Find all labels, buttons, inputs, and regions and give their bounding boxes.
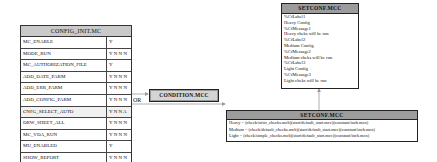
- setconf-top-title: SETCONF.MCC: [282, 4, 358, 14]
- config-key: MC_AUTHORIZATION_FILE: [21, 60, 107, 71]
- config-key: MC_ENABLE: [21, 37, 107, 48]
- config-value: Y N N N: [107, 49, 131, 60]
- config-value: Y N N N: [107, 83, 131, 94]
- setconf-definitions-box: SETCONF.MCC Heavy = (check/strict_checks…: [226, 110, 418, 142]
- config-key: ADD_DATE_PARM: [21, 72, 107, 83]
- config-value: Y: [107, 60, 131, 71]
- config-value: Y N N N: [107, 130, 131, 141]
- table-row: MC_VDA_RUNY N N N: [21, 130, 131, 142]
- or-connector-label: OR: [133, 97, 141, 103]
- table-row: MU_ENABLEDY: [21, 141, 131, 153]
- table-row: DRW_SHEET_ALLY N N N: [21, 118, 131, 130]
- config-key: ADD_CONFIG_PARM: [21, 95, 107, 106]
- config-key: MU_ENABLED: [21, 141, 107, 152]
- config-table-title: CONFIG_INIT.MC: [21, 26, 131, 37]
- config-init-table: CONFIG_INIT.MC MC_ENABLEY MODE_RUNY N N …: [20, 25, 132, 162]
- config-key: MODE_RUN: [21, 49, 107, 60]
- config-key: SHOW_REPORT: [21, 153, 107, 162]
- table-row: ADD_DATE_PARMY N N N: [21, 72, 131, 84]
- config-key: ADD_ERR_PARM: [21, 83, 107, 94]
- table-row-highlighted: CNFG_SELECT_AUTOY N N A: [21, 107, 131, 119]
- setconf-messages-box: SETCONF.MCC %CfLabel1 Heavy Config %CfMe…: [281, 3, 359, 89]
- condition-mcc-box: CONDITION.MCC: [149, 89, 219, 102]
- setconf-definition-line: Medium = (check/default_checks.mch)(star…: [227, 127, 417, 134]
- config-value: Y N N N: [107, 95, 131, 106]
- setconf-definition-line: Heavy = (check/strict_checks.mch)(start/…: [227, 120, 417, 127]
- setconf-definition-line: Light = (check/simple_checks.mch)(start/…: [227, 133, 417, 140]
- table-row: ADD_ERR_PARMY N N N: [21, 83, 131, 95]
- table-row: MC_AUTHORIZATION_FILEY: [21, 60, 131, 72]
- config-key: DRW_SHEET_ALL: [21, 118, 107, 129]
- table-row: MODE_RUNY N N N: [21, 49, 131, 61]
- config-value: Y N N N: [107, 72, 131, 83]
- config-key: MC_VDA_RUN: [21, 130, 107, 141]
- table-row: SHOW_REPORTY N N N: [21, 153, 131, 162]
- table-row: ADD_CONFIG_PARMY N N N: [21, 95, 131, 107]
- config-value: Y N N N: [107, 118, 131, 129]
- config-value: Y N N A: [107, 107, 131, 118]
- config-key: CNFG_SELECT_AUTO: [21, 107, 107, 118]
- table-row: MC_ENABLEY: [21, 37, 131, 49]
- config-value: Y: [107, 141, 131, 152]
- condition-box-title: CONDITION.MCC: [151, 91, 217, 100]
- config-value: Y N N N: [107, 153, 131, 162]
- setconf-bottom-title: SETCONF.MCC: [227, 111, 417, 120]
- setconf-line: Light cheks will be run: [282, 78, 358, 84]
- config-value: Y: [107, 37, 131, 48]
